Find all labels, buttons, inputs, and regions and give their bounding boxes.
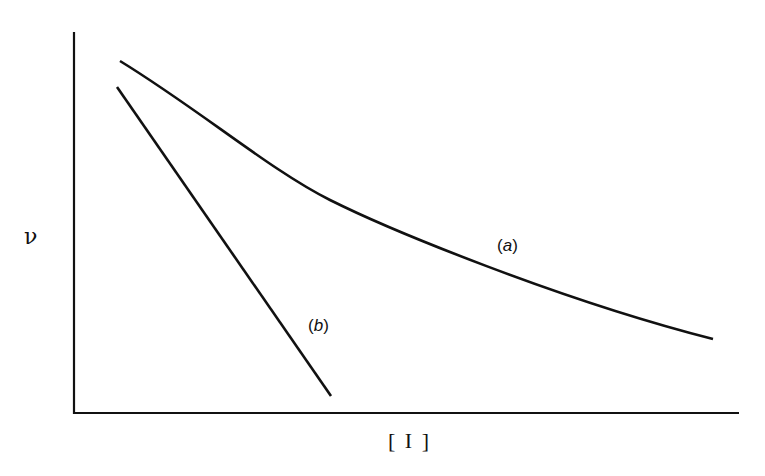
y-axis-label: ν (24, 224, 37, 249)
series-b-line (117, 87, 331, 396)
chart-canvas (0, 0, 765, 476)
series-b-label: (b) (308, 316, 329, 336)
series-a-label: (a) (497, 236, 518, 256)
series-a-curve (120, 61, 713, 339)
x-axis-label: [ I ] (388, 428, 431, 454)
